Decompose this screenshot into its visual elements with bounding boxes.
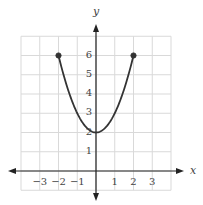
x-tick-label: 2 [130, 176, 136, 187]
x-tick-label: −3 [32, 176, 47, 187]
y-tick-label: 3 [86, 106, 92, 117]
y-tick-label: 5 [86, 68, 92, 79]
tick-labels: −3−2−1123123456 [32, 49, 155, 188]
chart: −3−2−1123123456 x y [0, 0, 203, 205]
x-tick-label: 3 [149, 176, 155, 187]
endpoint-dot [56, 53, 61, 58]
y-tick-label: 6 [86, 49, 92, 60]
y-tick-label: 4 [86, 87, 92, 98]
x-axis-left-arrow-icon [8, 168, 16, 174]
endpoint-dot [131, 53, 136, 58]
y-axis-label: y [92, 5, 100, 18]
y-tick-label: 1 [86, 145, 92, 156]
axes [8, 24, 184, 201]
x-tick-label: −2 [51, 176, 66, 187]
x-axis-label: x [190, 164, 197, 177]
y-axis-bottom-arrow-icon [93, 193, 99, 201]
x-axis-right-arrow-icon [176, 168, 184, 174]
x-tick-label: 1 [112, 176, 118, 187]
chart-svg: −3−2−1123123456 x y [0, 0, 203, 205]
x-tick-label: −1 [70, 176, 85, 187]
y-axis-top-arrow-icon [93, 24, 99, 32]
